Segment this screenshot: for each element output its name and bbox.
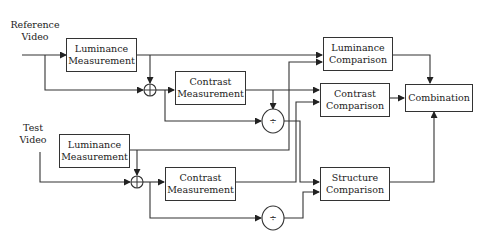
test-contrast-measurement-block: ContrastMeasurement <box>165 167 236 201</box>
structure-comparison-block: StructureComparison <box>320 167 390 201</box>
reference-video-label: Reference Video <box>10 19 60 43</box>
ref-sum-operator <box>144 84 156 96</box>
divide-symbol: ÷ <box>267 212 279 224</box>
ref-luminance-measurement-block: LuminanceMeasurement <box>66 38 137 72</box>
combination-block: Combination <box>405 84 473 112</box>
test-sum-operator <box>131 176 143 188</box>
contrast-comparison-block: ContrastComparison <box>320 83 390 117</box>
test-luminance-measurement-block: LuminanceMeasurement <box>59 134 130 168</box>
test-video-label: Test Video <box>18 122 48 146</box>
ref-contrast-measurement-block: ContrastMeasurement <box>175 71 246 105</box>
luminance-comparison-block: LuminanceComparison <box>323 37 393 71</box>
diagram-connectors <box>0 0 489 239</box>
divide-symbol: ÷ <box>267 115 279 127</box>
